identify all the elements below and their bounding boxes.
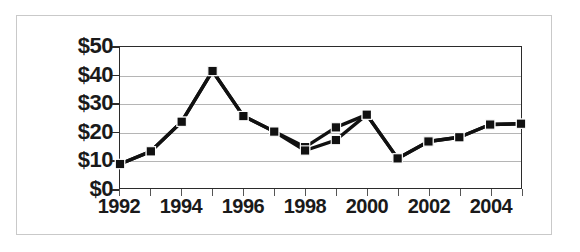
x-axis-tick-mark	[150, 189, 151, 196]
line-chart-svg	[120, 47, 521, 188]
y-axis-tick-label: $30	[41, 92, 113, 114]
plot-area	[119, 46, 522, 189]
x-axis-tick-label: 1994	[146, 196, 216, 216]
x-axis-labels: 1992199419961998200020022004	[119, 196, 522, 226]
data-point-marker	[300, 146, 309, 155]
data-point-marker	[393, 154, 402, 163]
y-axis-labels: $50$40$30$20$10$0	[27, 46, 113, 189]
y-axis-tick-label: $10	[41, 149, 113, 171]
x-axis-tick-mark	[460, 189, 461, 196]
data-point-marker	[362, 110, 371, 119]
data-point-marker	[424, 137, 433, 146]
x-axis-tick-label: 1998	[270, 196, 340, 216]
x-axis-tick-label: 2004	[456, 196, 526, 216]
x-axis-tick-label: 1992	[84, 196, 154, 216]
y-axis-tick-label: $50	[41, 35, 113, 57]
data-point-marker	[485, 120, 494, 129]
y-axis-tick-mark	[112, 75, 119, 77]
y-axis-tick-mark	[112, 132, 119, 134]
data-point-marker	[177, 117, 186, 126]
y-axis-tick-mark	[112, 189, 119, 191]
x-axis-tick-label: 2000	[332, 196, 402, 216]
y-axis-tick-label: $20	[41, 121, 113, 143]
data-point-marker	[115, 159, 124, 168]
x-axis-tick-mark	[522, 189, 523, 196]
data-point-marker	[146, 147, 155, 156]
y-axis-tick-mark	[112, 46, 119, 48]
y-axis-tick-label: $40	[41, 64, 113, 86]
data-point-marker	[516, 119, 525, 128]
chart-outer-frame: $50$40$30$20$10$0 1992199419961998200020…	[16, 15, 552, 235]
data-point-marker	[239, 111, 248, 120]
chart-screenshot: $50$40$30$20$10$0 1992199419961998200020…	[0, 0, 580, 252]
x-axis-tick-label: 1996	[208, 196, 278, 216]
x-axis-tick-mark	[398, 189, 399, 196]
data-point-marker	[208, 66, 217, 75]
data-point-marker	[331, 123, 340, 132]
x-axis-tick-mark	[212, 189, 213, 196]
data-point-marker	[331, 135, 340, 144]
data-point-marker	[270, 127, 279, 136]
x-axis-tick-mark	[274, 189, 275, 196]
x-axis-tick-mark	[336, 189, 337, 196]
y-axis-tick-mark	[112, 103, 119, 105]
x-axis-tick-label: 2002	[394, 196, 464, 216]
data-point-marker	[455, 133, 464, 142]
